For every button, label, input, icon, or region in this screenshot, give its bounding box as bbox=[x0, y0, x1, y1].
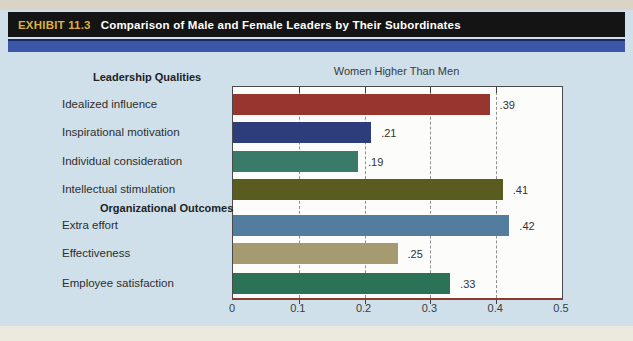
group-heading-organizational-outcomes: Organizational Outcomes bbox=[100, 202, 233, 214]
bar-inspirational-motivation bbox=[233, 122, 371, 143]
exhibit-title: Comparison of Male and Female Leaders by… bbox=[101, 19, 461, 31]
x-tick-label: 0 bbox=[229, 302, 235, 314]
value-label: .41 bbox=[513, 184, 528, 196]
category-label-idealized-influence: Idealized influence bbox=[62, 98, 157, 110]
value-label: .42 bbox=[519, 220, 534, 232]
category-label-intellectual-stimulation: Intellectual stimulation bbox=[62, 183, 175, 195]
category-label-employee-satisfaction: Employee satisfaction bbox=[62, 277, 174, 289]
x-tick-label: 0.2 bbox=[356, 302, 371, 314]
axis-tick bbox=[496, 87, 497, 93]
chart-title: Women Higher Than Men bbox=[232, 65, 561, 77]
bar-effectiveness bbox=[233, 243, 398, 264]
page-margin-bottom bbox=[0, 326, 633, 341]
group-heading-leadership-qualities: Leadership Qualities bbox=[93, 71, 201, 83]
bar-individual-consideration bbox=[233, 151, 358, 172]
value-label: .39 bbox=[500, 99, 515, 111]
bar-employee-satisfaction bbox=[233, 273, 450, 294]
textbook-exhibit-page: EXHIBIT 11.3 Comparison of Male and Fema… bbox=[0, 0, 633, 341]
x-tick-label: 0.1 bbox=[290, 302, 305, 314]
value-label: .25 bbox=[408, 248, 423, 260]
value-label: .19 bbox=[368, 156, 383, 168]
axis-tick bbox=[299, 87, 300, 93]
plot-area: .39.21.19.41.42.25.33 bbox=[232, 86, 563, 300]
exhibit-number: EXHIBIT 11.3 bbox=[18, 19, 91, 31]
bar-extra-effort bbox=[233, 215, 509, 236]
axis-tick bbox=[365, 87, 366, 93]
x-tick-label: 0.3 bbox=[422, 302, 437, 314]
exhibit-header-bar: EXHIBIT 11.3 Comparison of Male and Fema… bbox=[8, 12, 625, 37]
bar-intellectual-stimulation bbox=[233, 179, 503, 200]
category-label-effectiveness: Effectiveness bbox=[62, 247, 130, 259]
x-tick-label: 0.4 bbox=[488, 302, 503, 314]
x-tick-label: 0.5 bbox=[553, 302, 568, 314]
category-label-inspirational-motivation: Inspirational motivation bbox=[62, 126, 180, 138]
page-margin-top bbox=[0, 0, 633, 10]
value-label: .33 bbox=[460, 278, 475, 290]
axis-tick bbox=[430, 87, 431, 93]
divider-stripe bbox=[8, 39, 625, 52]
category-label-extra-effort: Extra effort bbox=[62, 219, 118, 231]
bar-idealized-influence bbox=[233, 94, 490, 115]
value-label: .21 bbox=[381, 127, 396, 139]
category-label-individual-consideration: Individual consideration bbox=[62, 155, 182, 167]
